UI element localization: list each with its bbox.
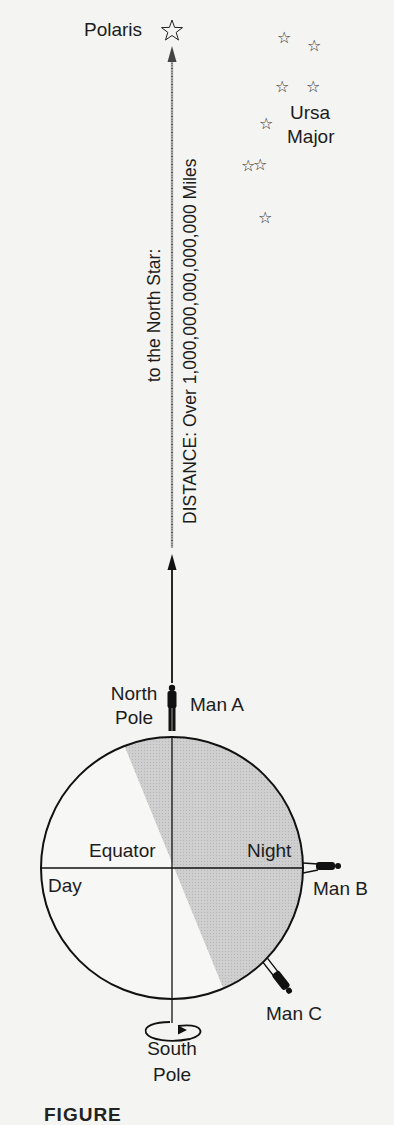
distance-arrow [168, 46, 177, 548]
star-icon: ☆ [277, 28, 291, 48]
star-icon: ☆ [259, 114, 273, 134]
man-c-figure-icon [261, 957, 294, 996]
south-pole-label-line1: South [142, 1036, 202, 1062]
figure-caption: FIGURE [44, 1104, 122, 1125]
man-b-figure-icon [303, 862, 341, 873]
distance-label: DISTANCE: Over 1,000,000,000,000,000 Mil… [180, 159, 201, 524]
north-pole-label: North Pole [104, 682, 164, 730]
star-icon: ☆ [307, 36, 321, 56]
polaris-label: Polaris [84, 19, 142, 41]
star-icon: ☆ [275, 77, 289, 97]
south-pole-label-line2: Pole [142, 1062, 202, 1088]
south-pole-label: South Pole [142, 1036, 202, 1088]
night-label: Night [247, 840, 291, 862]
polaris-star-icon [162, 20, 183, 40]
north-pole-label-line1: North [104, 682, 164, 706]
star-icon: ☆ [253, 155, 267, 175]
star-icon: ☆ [258, 208, 272, 228]
man-a-figure-icon [168, 685, 177, 731]
equator-label: Equator [89, 840, 156, 862]
arrow-label-left: to the North Star: [144, 249, 165, 382]
star-icon: ☆ [306, 77, 320, 97]
north-axis-arrow [168, 554, 177, 683]
man-b-label: Man B [313, 878, 368, 900]
day-label: Day [48, 875, 82, 897]
ursa-major-label-line1: Ursa [287, 101, 335, 125]
man-a-label: Man A [190, 694, 244, 716]
ursa-major-label: Ursa Major [287, 101, 335, 149]
ursa-major-label-line2: Major [287, 125, 335, 149]
earth-globe [41, 735, 330, 1023]
man-c-label: Man C [266, 1003, 322, 1025]
north-pole-label-line2: Pole [104, 706, 164, 730]
